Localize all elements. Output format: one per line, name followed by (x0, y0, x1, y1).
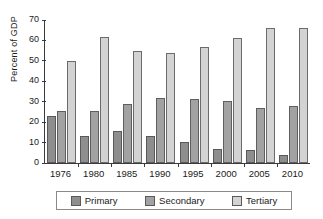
bar-secondary-1980 (90, 111, 99, 163)
bar-chart: Percent of GDP 706050403020100 197619801… (0, 0, 323, 219)
y-axis-tick-label: 50 (29, 55, 39, 66)
bar-tertiary-2010 (299, 28, 308, 163)
bar-secondary-2000 (223, 101, 232, 163)
x-axis-label: 1985 (110, 168, 143, 180)
y-axis-tick-label: 60 (29, 34, 39, 45)
y-axis-title: Percent of GDP (9, 0, 19, 109)
x-axis-label: 1976 (44, 168, 77, 180)
y-axis-tick-label: 40 (29, 75, 39, 86)
bar-tertiary-2005 (266, 28, 275, 163)
x-axis-label: 2005 (243, 168, 276, 180)
bar-secondary-1995 (190, 99, 199, 163)
x-axis-label: 2010 (276, 168, 309, 180)
x-axis-tick-mark (277, 163, 278, 167)
bar-group (244, 20, 277, 163)
y-axis-tick-label: 10 (29, 137, 39, 148)
bar-tertiary-1995 (200, 47, 209, 163)
y-axis-tick-label: 70 (29, 14, 39, 25)
x-axis-labels: 19761980198519901995200020052010 (44, 168, 309, 180)
chart-legend: PrimarySecondaryTertiary (56, 191, 292, 210)
bar-secondary-1985 (123, 104, 132, 163)
x-axis-label: 1995 (177, 168, 210, 180)
x-axis-label: 2000 (210, 168, 243, 180)
bar-primary-1995 (180, 142, 189, 163)
bar-secondary-2010 (289, 106, 298, 163)
bar-group (178, 20, 211, 163)
bar-primary-1990 (146, 136, 155, 163)
x-axis-tick-mark (211, 163, 212, 167)
legend-item-secondary[interactable]: Secondary (145, 195, 204, 206)
bar-primary-2005 (246, 150, 255, 163)
bar-secondary-1976 (57, 111, 66, 163)
bar-tertiary-1976 (67, 61, 76, 163)
legend-item-primary[interactable]: Primary (71, 195, 118, 206)
x-axis-tick-mark (178, 163, 179, 167)
bar-tertiary-1985 (133, 51, 142, 163)
x-axis-tick-mark (111, 163, 112, 167)
legend-swatch-icon (71, 196, 81, 206)
legend-label: Primary (85, 195, 118, 206)
bar-group (211, 20, 244, 163)
bar-group (78, 20, 111, 163)
x-axis-tick-mark (244, 163, 245, 167)
bar-group (45, 20, 78, 163)
legend-item-tertiary[interactable]: Tertiary (232, 195, 277, 206)
bar-primary-2010 (279, 155, 288, 163)
bar-group (111, 20, 144, 163)
bar-group (277, 20, 310, 163)
y-axis-tick-label: 0 (34, 157, 39, 168)
bar-primary-1976 (47, 116, 56, 163)
bar-secondary-2005 (256, 108, 265, 163)
x-axis-label: 1980 (77, 168, 110, 180)
y-axis-tick-label: 20 (29, 116, 39, 127)
x-axis-label: 1990 (143, 168, 176, 180)
plot-area: 706050403020100 (44, 20, 310, 164)
bar-primary-1985 (113, 131, 122, 163)
bar-tertiary-1990 (166, 53, 175, 163)
legend-swatch-icon (232, 196, 242, 206)
legend-swatch-icon (145, 196, 155, 206)
bar-primary-1980 (80, 136, 89, 163)
bar-primary-2000 (213, 149, 222, 163)
legend-label: Secondary (159, 195, 204, 206)
legend-label: Tertiary (246, 195, 277, 206)
x-axis-tick-mark (78, 163, 79, 167)
bar-groups (45, 20, 310, 163)
bar-secondary-1990 (156, 98, 165, 163)
y-axis-tick-label: 30 (29, 96, 39, 107)
bar-tertiary-2000 (233, 38, 242, 163)
bar-tertiary-1980 (100, 37, 109, 163)
bar-group (144, 20, 177, 163)
x-axis-tick-mark (144, 163, 145, 167)
